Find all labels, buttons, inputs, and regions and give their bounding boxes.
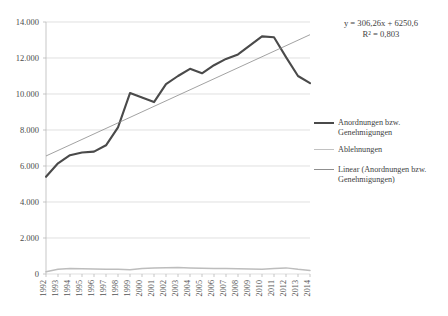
x-axis-tick-label: 2008 [231, 280, 240, 296]
x-axis-tick-label: 2003 [171, 280, 180, 296]
legend-item-ablehnungen[interactable]: Ablehnungen [314, 145, 448, 155]
y-axis-tick-label: 14.000 [16, 17, 39, 27]
x-axis-tick-label: 2011 [267, 280, 276, 296]
y-axis-tick-label: 12.000 [16, 53, 39, 63]
r-squared-text: R² = 0,803 [316, 29, 446, 40]
legend-label-line1: Ablehnungen [338, 145, 448, 155]
legend-swatch-line-icon [314, 122, 334, 124]
y-axis-tick-label: 6.000 [20, 161, 39, 171]
x-axis-tick-label: 1995 [75, 280, 84, 296]
x-axis-tick-label: 2014 [303, 280, 312, 296]
chart-container: 02.0004.0006.0008.00010.00012.00014.000 … [0, 0, 448, 316]
y-axis-tick-labels: 02.0004.0006.0008.00010.00012.00014.000 [16, 17, 39, 279]
equation-text: y = 306,26x + 6250,6 [316, 18, 446, 29]
legend-label: Ablehnungen [338, 145, 448, 155]
x-axis-tick-label: 1997 [99, 280, 108, 296]
x-axis-tick-label: 1998 [111, 280, 120, 296]
y-axis-tick-label: 10.000 [16, 89, 39, 99]
x-axis-tick-label: 2009 [243, 280, 252, 296]
legend-item-anordnungen[interactable]: Anordnungen bzw. Genehmigungen [314, 118, 448, 138]
x-axis-tick-label: 2013 [291, 280, 300, 296]
legend-label-line1: Linear (Anordnungen bzw. [338, 165, 448, 175]
x-axis-tick-label: 2004 [183, 280, 192, 296]
x-axis-tick-label: 1996 [87, 280, 96, 296]
x-axis-tick-label: 2001 [147, 280, 156, 296]
x-axis-tick-label: 2007 [219, 280, 228, 296]
y-axis-ticks [43, 22, 46, 274]
x-axis-tick-label: 1993 [51, 280, 60, 296]
linear-trendline [46, 35, 310, 156]
legend-swatch-line-icon [314, 149, 334, 150]
x-axis-tick-label: 2002 [159, 280, 168, 296]
legend-label-line1: Anordnungen bzw. [338, 118, 448, 128]
x-axis-tick-labels: 1992199319941995199619971998199920002001… [39, 280, 312, 296]
series-ablehnungen [46, 268, 310, 272]
x-axis-ticks [46, 274, 310, 277]
x-axis-tick-label: 2000 [135, 280, 144, 296]
y-axis-tick-label: 4.000 [20, 197, 39, 207]
y-axis-tick-label: 0 [35, 269, 39, 279]
trendline-equation-annotation: y = 306,26x + 6250,6 R² = 0,803 [316, 18, 446, 40]
y-axis-tick-label: 8.000 [20, 125, 39, 135]
x-axis-tick-label: 2006 [207, 280, 216, 296]
series-anordnungen-genehmigungen [46, 36, 310, 176]
chart-legend: Anordnungen bzw. Genehmigungen Ablehnung… [314, 118, 448, 192]
x-axis-tick-label: 1992 [39, 280, 48, 296]
legend-item-linear-trendline[interactable]: Linear (Anordnungen bzw. Genehmigungen) [314, 165, 448, 185]
legend-label-line2: Genehmigungen) [338, 175, 448, 185]
legend-label-line2: Genehmigungen [338, 128, 448, 138]
y-gridlines [46, 22, 310, 274]
x-axis-tick-label: 1994 [63, 280, 72, 296]
x-axis-tick-label: 1999 [123, 280, 132, 296]
y-axis-tick-label: 2.000 [20, 233, 39, 243]
x-axis-tick-label: 2012 [279, 280, 288, 296]
x-axis-tick-label: 2005 [195, 280, 204, 296]
legend-label: Linear (Anordnungen bzw. Genehmigungen) [338, 165, 448, 185]
legend-swatch-line-icon [314, 169, 334, 170]
x-axis-tick-label: 2010 [255, 280, 264, 296]
legend-label: Anordnungen bzw. Genehmigungen [338, 118, 448, 138]
